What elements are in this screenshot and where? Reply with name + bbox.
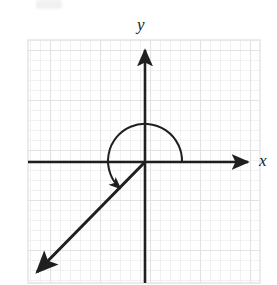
- coordinate-plane: [0, 0, 277, 285]
- angle-figure: y x: [0, 0, 277, 285]
- y-axis-label: y: [137, 16, 145, 33]
- x-axis-label: x: [259, 152, 267, 169]
